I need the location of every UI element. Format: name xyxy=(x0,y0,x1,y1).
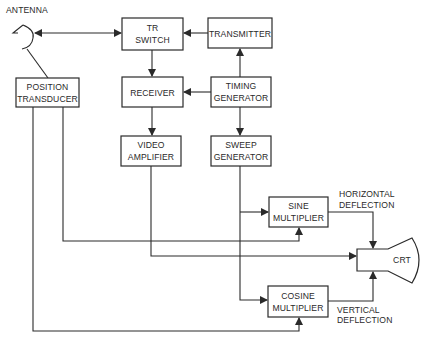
svg-text:CRT: CRT xyxy=(393,255,411,265)
svg-text:GENERATOR: GENERATOR xyxy=(214,152,269,162)
svg-text:DEFLECTION: DEFLECTION xyxy=(339,200,394,210)
vertical-deflection-label: VERTICAL DEFLECTION xyxy=(337,305,392,325)
video-amplifier-block: VIDEO AMPLIFIER xyxy=(121,136,181,166)
tr-switch-block: TR SWITCH xyxy=(122,18,183,50)
radar-block-diagram: ANTENNA TR SWITCH TRANSMITTER RECEIVER T… xyxy=(0,0,432,343)
svg-text:SWITCH: SWITCH xyxy=(135,35,170,45)
receiver-block: RECEIVER xyxy=(122,77,183,107)
svg-text:TIMING: TIMING xyxy=(226,81,257,91)
svg-text:VIDEO: VIDEO xyxy=(137,140,164,150)
position-sine-link xyxy=(63,107,299,241)
svg-text:POSITION: POSITION xyxy=(27,82,69,92)
crt-block: CRT xyxy=(357,238,419,283)
antenna-icon: ANTENNA xyxy=(6,5,48,49)
cosine-crt-link xyxy=(328,272,373,301)
svg-text:RECEIVER: RECEIVER xyxy=(130,88,175,98)
svg-text:MULTIPLIER: MULTIPLIER xyxy=(273,303,324,313)
svg-text:MULTIPLIER: MULTIPLIER xyxy=(273,213,324,223)
svg-text:AMPLIFIER: AMPLIFIER xyxy=(128,152,174,162)
svg-text:SWEEP: SWEEP xyxy=(225,140,257,150)
svg-text:TRANSDUCER: TRANSDUCER xyxy=(17,94,78,104)
svg-text:VERTICAL: VERTICAL xyxy=(337,305,380,315)
svg-text:SINE: SINE xyxy=(288,201,309,211)
svg-text:COSINE: COSINE xyxy=(281,291,315,301)
transmitter-block: TRANSMITTER xyxy=(208,18,272,48)
svg-text:DEFLECTION: DEFLECTION xyxy=(337,315,392,325)
sine-crt-link xyxy=(328,212,373,248)
sine-multiplier-block: SINE MULTIPLIER xyxy=(269,197,328,227)
position-transducer-block: POSITION TRANSDUCER xyxy=(16,78,79,107)
svg-text:HORIZONTAL: HORIZONTAL xyxy=(339,189,395,199)
antenna-label: ANTENNA xyxy=(6,5,48,15)
svg-text:TR: TR xyxy=(147,23,159,33)
svg-text:GENERATOR: GENERATOR xyxy=(214,93,269,103)
sweep-generator-block: SWEEP GENERATOR xyxy=(211,136,271,166)
antenna-position-link xyxy=(27,49,48,78)
timing-generator-block: TIMING GENERATOR xyxy=(211,77,271,107)
cosine-multiplier-block: COSINE MULTIPLIER xyxy=(268,286,328,317)
horizontal-deflection-label: HORIZONTAL DEFLECTION xyxy=(339,189,395,210)
svg-text:TRANSMITTER: TRANSMITTER xyxy=(209,29,271,39)
sweep-cosine-link xyxy=(240,166,267,300)
